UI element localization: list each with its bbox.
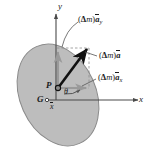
- x-bar-dimension-label: x: [50, 103, 54, 111]
- x-axis-label: x: [139, 95, 143, 104]
- point-g-label: G: [37, 95, 44, 104]
- point-p-marker: [55, 85, 60, 90]
- point-p-label: P: [46, 81, 52, 90]
- leader-line-a: [85, 52, 97, 56]
- y-axis-label: y: [58, 2, 62, 11]
- vector-label-a: (Δm)a: [99, 51, 120, 60]
- theta-angle-label: θ: [64, 88, 68, 96]
- subscript-ay: y: [99, 18, 102, 25]
- x-bar-text: x: [50, 103, 54, 111]
- vector-label-ax: (Δm)ax: [98, 73, 122, 84]
- leader-line-ay: [62, 22, 78, 47]
- rigid-body-shape: [2, 31, 115, 159]
- accel-symbol-ay: a: [95, 15, 99, 24]
- subscript-ax: x: [119, 76, 122, 83]
- point-g-marker: [45, 98, 48, 101]
- vector-label-ay: (Δm)ay: [78, 15, 102, 26]
- figure-canvas: y x P G x θ (Δm)ay (Δm)a (Δm)ax: [0, 0, 151, 163]
- diagram-svg: [0, 0, 151, 163]
- accel-symbol-a: a: [116, 51, 120, 60]
- accel-symbol-ax: a: [115, 73, 119, 82]
